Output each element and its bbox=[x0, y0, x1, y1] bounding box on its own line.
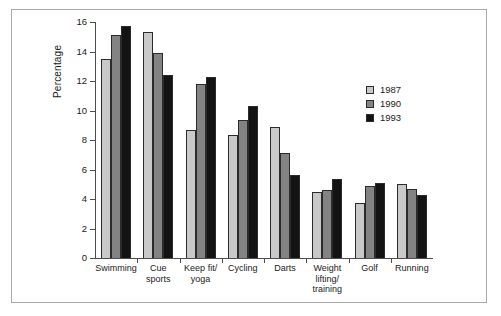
bar-group-bars bbox=[349, 22, 391, 258]
y-tick-mark bbox=[90, 258, 95, 259]
bar bbox=[248, 106, 258, 258]
legend-item: 1987 bbox=[366, 83, 401, 96]
bar-group-bars bbox=[306, 22, 348, 258]
legend-swatch bbox=[366, 86, 374, 94]
bar bbox=[111, 35, 121, 258]
chart-figure: Percentage 0246810121416 SwimmingCue spo… bbox=[0, 0, 501, 316]
bar bbox=[322, 190, 332, 258]
bar-group-bars bbox=[264, 22, 306, 258]
bar bbox=[375, 183, 385, 258]
legend-label: 1993 bbox=[380, 111, 401, 124]
y-tick-label: 4 bbox=[82, 192, 87, 205]
y-tick-label: 2 bbox=[82, 222, 87, 235]
bar bbox=[332, 179, 342, 258]
bar bbox=[290, 175, 300, 258]
bar-group: Cue sports bbox=[137, 22, 179, 258]
y-tick-label: 16 bbox=[76, 15, 87, 28]
bar bbox=[397, 184, 407, 258]
bar-group-bars bbox=[222, 22, 264, 258]
bar-group-bars bbox=[180, 22, 222, 258]
bar bbox=[206, 77, 216, 258]
legend-swatch bbox=[366, 100, 374, 108]
bar bbox=[186, 130, 196, 258]
legend-swatch bbox=[366, 114, 374, 122]
legend-label: 1987 bbox=[380, 83, 401, 96]
bar bbox=[228, 135, 238, 258]
bar bbox=[312, 192, 322, 258]
legend-item: 1993 bbox=[366, 111, 401, 124]
bar-group: Darts bbox=[264, 22, 306, 258]
bar-group-bars bbox=[391, 22, 433, 258]
bar bbox=[365, 186, 375, 258]
bar bbox=[238, 120, 248, 258]
bar bbox=[101, 59, 111, 258]
y-axis-title: Percentage bbox=[52, 45, 63, 98]
y-tick-label: 14 bbox=[76, 45, 87, 58]
bar bbox=[121, 26, 131, 258]
bar bbox=[407, 189, 417, 258]
legend-label: 1990 bbox=[380, 97, 401, 110]
y-tick-label: 6 bbox=[82, 163, 87, 176]
bar-group: Swimming bbox=[95, 22, 137, 258]
bar-group: Keep fit/ yoga bbox=[180, 22, 222, 258]
bar bbox=[153, 53, 163, 258]
bar bbox=[417, 195, 427, 258]
bar bbox=[163, 75, 173, 258]
y-tick-label: 12 bbox=[76, 74, 87, 87]
y-tick-label: 8 bbox=[82, 133, 87, 146]
plot-area: 0246810121416 SwimmingCue sportsKeep fit… bbox=[95, 22, 433, 258]
bar bbox=[196, 84, 206, 258]
bar bbox=[355, 203, 365, 258]
bar bbox=[143, 32, 153, 258]
x-tick-label: Running bbox=[384, 263, 440, 274]
bar bbox=[270, 127, 280, 258]
legend-item: 1990 bbox=[366, 97, 401, 110]
bar bbox=[280, 153, 290, 258]
bar-group-bars bbox=[95, 22, 137, 258]
y-tick-label: 0 bbox=[82, 251, 87, 264]
bar-group: Cycling bbox=[222, 22, 264, 258]
bar-group: Golf bbox=[349, 22, 391, 258]
bar-group-bars bbox=[137, 22, 179, 258]
legend: 198719901993 bbox=[366, 83, 401, 125]
y-tick-label: 10 bbox=[76, 104, 87, 117]
bar-group: Weight lifting/ training bbox=[306, 22, 348, 258]
bar-group: Running bbox=[391, 22, 433, 258]
